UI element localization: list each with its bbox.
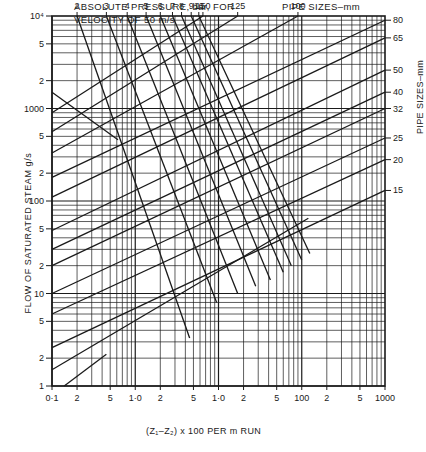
pressure-label: 8 [179, 1, 184, 11]
x-tick-label: 5 [274, 393, 279, 403]
pipe-size-label: 25 [393, 133, 403, 143]
pressure-line [52, 92, 118, 139]
pressure-label: 5 [144, 1, 149, 11]
y-tick-label: 10 [34, 289, 44, 299]
y-tick-label: 5 [39, 224, 44, 234]
pipe-size-label: 50 [393, 65, 403, 75]
pressure-label: 3 [104, 1, 109, 11]
pipe-size-label: 80 [393, 15, 403, 25]
pipe-size-label: 65 [393, 33, 403, 43]
x-tick-label: 1·0 [129, 393, 142, 403]
y-tick-label: 2 [39, 353, 44, 363]
y-tick-label: 2 [39, 168, 44, 178]
pipe-size-label: 150 [195, 1, 210, 11]
grid-lines [52, 16, 385, 386]
x-tick-label: 2 [241, 393, 246, 403]
pipe-size-label: 15 [393, 185, 403, 195]
x-tick-label: 2 [324, 393, 329, 403]
x-tick-label: 2 [158, 393, 163, 403]
pipe-size-label: 40 [393, 87, 403, 97]
pipe-size-label: 20 [393, 155, 403, 165]
y-tick-label: 5 [39, 131, 44, 141]
pipe-size-label: 32 [393, 104, 403, 114]
y-tick-label: 5 [39, 316, 44, 326]
x-tick-label: 5 [191, 393, 196, 403]
x-tick-label: 0·1 [45, 393, 58, 403]
x-tick-label: 100 [294, 393, 309, 403]
y-tick-label: 10⁴ [30, 11, 44, 21]
y-tick-label: 100 [29, 196, 44, 206]
axis-ticks: 0·1251·0251·02510025100010⁴5210005210052… [24, 1, 403, 403]
x-tick-label: 1000 [375, 393, 395, 403]
y-tick-label: 2 [39, 76, 44, 86]
steam-flow-chart: 0·1251·0251·02510025100010⁴5210005210052… [0, 0, 426, 452]
x-tick-label: 5 [357, 393, 362, 403]
pipe-size-label: 100 [290, 1, 305, 11]
pressure-label: 6 [158, 1, 163, 11]
pressure-label: 2 [75, 1, 80, 11]
y-tick-label: 1 [39, 381, 44, 391]
pressure-line [127, 16, 238, 294]
y-tick-label: 1000 [24, 104, 44, 114]
pressure-line [199, 16, 310, 254]
y-tick-label: 5 [39, 39, 44, 49]
pressure-label: 4 [125, 1, 130, 11]
x-tick-label: 1·0 [212, 393, 225, 403]
x-tick-label: 5 [108, 393, 113, 403]
pipe-size-label: 125 [230, 1, 245, 11]
x-tick-label: 2 [75, 393, 80, 403]
pressure-label: 7 [170, 1, 175, 11]
pressure-line [160, 16, 270, 280]
y-tick-label: 2 [39, 261, 44, 271]
